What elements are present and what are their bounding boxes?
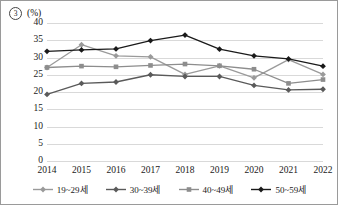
x-axis-tick: 2017 <box>141 165 160 175</box>
data-point <box>79 80 85 86</box>
plot-area: 4035302520151050 20142015201620172018201… <box>47 23 323 161</box>
y-axis-tick: 40 <box>34 18 44 28</box>
data-point <box>113 46 119 52</box>
legend-label: 50~59세 <box>275 183 306 196</box>
x-axis-tick: 2014 <box>38 165 57 175</box>
legend-point <box>186 187 191 192</box>
data-point <box>320 63 326 69</box>
legend-marker-icon <box>32 185 54 194</box>
legend-label: 19~29세 <box>57 183 88 196</box>
legend-point <box>113 187 119 193</box>
legend-label: 40~49세 <box>203 183 234 196</box>
x-axis-tick: 2021 <box>279 165 298 175</box>
data-point <box>251 75 257 81</box>
data-point <box>320 86 326 92</box>
data-point <box>114 65 119 70</box>
data-point <box>251 83 257 89</box>
gridline <box>47 161 323 162</box>
x-axis-tick: 2018 <box>176 165 195 175</box>
legend-item-2[interactable]: 30~39세 <box>105 183 161 196</box>
data-point <box>113 53 119 59</box>
y-axis-tick: 25 <box>34 70 44 80</box>
y-axis-tick: 15 <box>34 105 44 115</box>
y-axis-tick: 5 <box>38 139 43 149</box>
data-point <box>148 54 154 60</box>
x-axis-tick: 2015 <box>72 165 91 175</box>
data-point <box>320 72 326 78</box>
x-axis-tick: 2020 <box>245 165 264 175</box>
data-point <box>251 53 257 59</box>
data-point <box>79 64 84 69</box>
y-axis-tick: 35 <box>34 36 44 46</box>
series-2 <box>44 72 326 97</box>
data-point <box>113 79 119 85</box>
legend-marker-icon <box>250 185 272 194</box>
data-point <box>148 63 153 68</box>
data-point <box>182 32 188 38</box>
y-axis-tick: 10 <box>34 122 44 132</box>
data-point <box>252 67 257 72</box>
y-axis-tick: 30 <box>34 53 44 63</box>
data-point <box>321 77 326 82</box>
chart-legend: 19~29세30~39세40~49세50~59세 <box>1 183 337 196</box>
legend-point <box>40 187 46 193</box>
series-line <box>47 35 323 66</box>
y-axis-tick: 20 <box>34 87 44 97</box>
legend-marker-icon <box>105 185 127 194</box>
chart-frame: 3 (%) 4035302520151050 20142015201620172… <box>0 0 338 205</box>
x-axis-tick: 2016 <box>107 165 126 175</box>
x-axis-tick: 2019 <box>210 165 229 175</box>
data-point <box>148 72 154 78</box>
legend-label: 30~39세 <box>130 183 161 196</box>
data-point <box>183 62 188 67</box>
data-point <box>286 87 292 93</box>
data-point <box>79 47 85 53</box>
legend-item-4[interactable]: 50~59세 <box>250 183 306 196</box>
legend-item-1[interactable]: 19~29세 <box>32 183 88 196</box>
chart-index-marker: 3 <box>9 7 22 20</box>
legend-marker-icon <box>178 185 200 194</box>
data-point <box>44 48 50 54</box>
data-point <box>217 46 223 52</box>
x-axis-tick: 2022 <box>314 165 333 175</box>
legend-point <box>258 187 264 193</box>
series-lines <box>47 23 323 161</box>
data-point <box>217 63 222 68</box>
data-point <box>44 92 50 98</box>
data-point <box>286 81 291 86</box>
data-point <box>148 38 154 44</box>
data-point <box>45 65 50 70</box>
data-point <box>217 74 223 80</box>
legend-item-3[interactable]: 40~49세 <box>178 183 234 196</box>
